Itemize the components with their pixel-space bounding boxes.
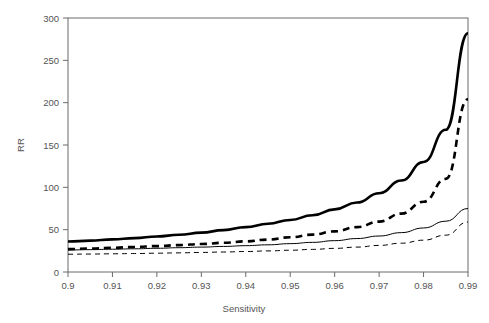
- y-tick-label: 300: [43, 13, 59, 24]
- x-tick-label: 0.9: [61, 280, 74, 291]
- y-tick-label: 100: [43, 182, 59, 193]
- y-tick-label: 0: [54, 267, 59, 278]
- x-tick-label: 0.99: [459, 280, 478, 291]
- x-tick-label: 0.95: [281, 280, 300, 291]
- x-axis-title: Sensitivity: [223, 303, 266, 314]
- y-tick-label: 250: [43, 55, 59, 66]
- y-axis-title: RR: [15, 138, 26, 152]
- x-tick-label: 0.93: [192, 280, 211, 291]
- rr-sensitivity-chart: 050100150200250300 0.90.910.920.930.940.…: [0, 0, 489, 323]
- y-tick-label: 50: [48, 224, 59, 235]
- chart-canvas: 050100150200250300 0.90.910.920.930.940.…: [0, 0, 489, 323]
- x-tick-label: 0.97: [370, 280, 389, 291]
- x-tick-label: 0.98: [414, 280, 433, 291]
- x-tick-label: 0.94: [237, 280, 256, 291]
- x-tick-label: 0.91: [103, 280, 122, 291]
- x-tick-label: 0.92: [148, 280, 167, 291]
- x-tick-label: 0.96: [325, 280, 344, 291]
- y-tick-label: 200: [43, 97, 59, 108]
- y-tick-label: 150: [43, 140, 59, 151]
- chart-background: [0, 0, 489, 323]
